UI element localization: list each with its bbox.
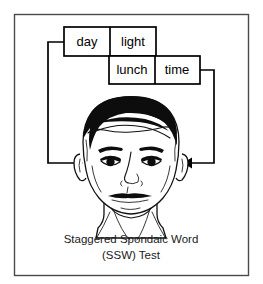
word-cell-lunch[interactable]: lunch bbox=[116, 62, 147, 77]
word-cell-time[interactable]: time bbox=[165, 62, 190, 77]
word-row-1: lunch time bbox=[109, 56, 200, 84]
eye-left-pupil bbox=[147, 158, 155, 166]
word-cell-day[interactable]: day bbox=[77, 34, 98, 49]
figure-root: day light lunch time Staggered Spondaic … bbox=[0, 0, 263, 284]
caption-line-2: (SSW) Test bbox=[102, 249, 161, 261]
eye-right-pupil bbox=[106, 158, 114, 166]
word-row-0: day light bbox=[64, 27, 156, 56]
word-cell-light[interactable]: light bbox=[121, 34, 145, 49]
caption-line-1: Staggered Spondaic Word bbox=[64, 233, 199, 245]
ssw-test-figure: day light lunch time Staggered Spondaic … bbox=[0, 0, 263, 284]
